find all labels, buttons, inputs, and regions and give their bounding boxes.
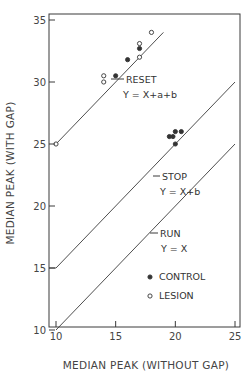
lesion-point xyxy=(102,74,106,78)
y-tick-label: 10 xyxy=(33,325,46,336)
control-point xyxy=(171,134,175,138)
y-tick-label: 15 xyxy=(33,263,46,274)
line-run xyxy=(56,144,235,330)
lesion-point xyxy=(137,55,141,59)
legend-open-circle-icon xyxy=(148,294,152,298)
legend: CONTROLLESION xyxy=(148,271,206,301)
legend-filled-circle-icon xyxy=(148,275,152,279)
control-point xyxy=(179,130,183,134)
legend-label-lesion: LESION xyxy=(159,290,194,301)
x-tick-label: 10 xyxy=(50,331,63,342)
equation-stop: Y = X+b xyxy=(159,186,200,197)
y-tick-label: 20 xyxy=(33,201,46,212)
control-point xyxy=(126,58,130,62)
equation-run: Y = X xyxy=(160,243,188,254)
plot-frame xyxy=(49,14,240,327)
control-point xyxy=(173,142,177,146)
axis-ticks: 10152025101520253035 xyxy=(33,15,241,343)
label-run: RUN xyxy=(160,228,181,239)
y-tick-label: 35 xyxy=(33,15,46,26)
legend-label-control: CONTROL xyxy=(159,271,206,282)
control-point xyxy=(137,46,141,50)
y-axis-title: MEDIAN PEAK (WITH GAP) xyxy=(4,101,16,244)
scatter-chart: 10152025101520253035 RUNY = XSTOPY = X+b… xyxy=(0,0,242,371)
control-point xyxy=(173,130,177,134)
lesion-point xyxy=(102,80,106,84)
plot-border xyxy=(49,14,240,327)
x-tick-label: 20 xyxy=(169,331,182,342)
lesion-point xyxy=(137,41,141,45)
x-tick-label: 15 xyxy=(109,331,122,342)
x-tick-label: 25 xyxy=(229,331,242,342)
equation-reset: Y = X+a+b xyxy=(122,89,177,100)
label-reset: RESET xyxy=(126,74,157,85)
control-point xyxy=(114,74,118,78)
line-stop xyxy=(56,82,235,268)
y-tick-label: 30 xyxy=(33,77,46,88)
lesion-point xyxy=(149,30,153,34)
label-stop: STOP xyxy=(162,171,187,182)
x-axis-title: MEDIAN PEAK (WITHOUT GAP) xyxy=(63,359,229,371)
y-tick-label: 25 xyxy=(33,139,46,150)
